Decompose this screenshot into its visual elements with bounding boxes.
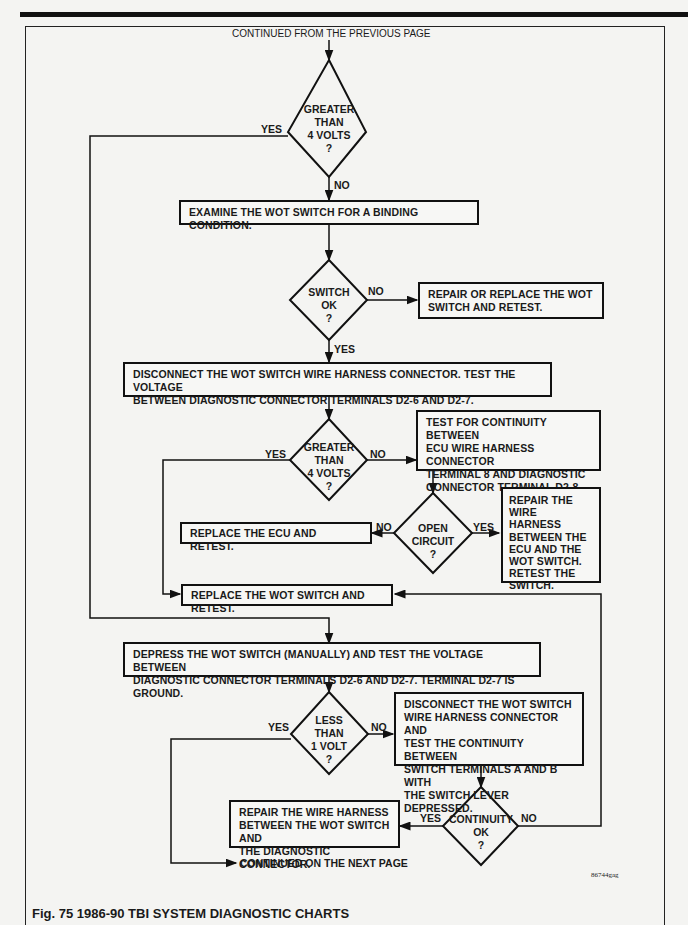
yes-label: YES <box>265 448 286 460</box>
box-line: REPAIR THE WIRE HARNESS <box>239 806 390 819</box>
decision-line: ? <box>401 548 465 561</box>
box-replace-wot: REPLACE THE WOT SWITCH AND RETEST. <box>181 584 393 606</box>
no-label: NO <box>371 721 387 733</box>
decision-line: 1 VOLT <box>299 740 359 753</box>
decision-line: OK <box>446 826 516 839</box>
yes-label: YES <box>268 721 289 733</box>
box-line: TEST THE CONTINUITY BETWEEN <box>404 737 574 763</box>
decision-line: OPEN <box>401 522 465 535</box>
box-line: BETWEEN THE WOT SWITCH AND <box>239 819 390 845</box>
box-depress: DEPRESS THE WOT SWITCH (MANUALLY) AND TE… <box>123 642 541 677</box>
box-disconnect-test: DISCONNECT THE WOT SWITCH WIRE HARNESS C… <box>123 362 552 397</box>
decision-d2-text: SWITCH OK ? <box>299 286 359 325</box>
box-line: DEPRESS THE WOT SWITCH (MANUALLY) AND TE… <box>133 648 531 674</box>
no-label: NO <box>370 448 386 460</box>
decision-line: 4 VOLTS <box>296 467 362 480</box>
box-line: TEST FOR CONTINUITY BETWEEN <box>426 416 591 442</box>
decision-line: OK <box>299 299 359 312</box>
decision-line: ? <box>299 312 359 325</box>
decision-line: THAN <box>299 727 359 740</box>
box-repair-harness-ecu: REPAIR THE WIRE HARNESS BETWEEN THE ECU … <box>501 487 601 583</box>
figure-caption: Fig. 75 1986-90 TBI SYSTEM DIAGNOSTIC CH… <box>32 906 349 921</box>
box-replace-ecu: REPLACE THE ECU AND RETEST. <box>180 522 372 544</box>
box-line: RETEST THE <box>509 567 593 579</box>
yes-label: YES <box>334 343 355 355</box>
decision-line: CIRCUIT <box>401 535 465 548</box>
box-line: REPAIR THE WIRE <box>509 494 593 518</box>
yes-label: YES <box>473 521 494 533</box>
box-line: ECU WIRE HARNESS CONNECTOR <box>426 442 591 468</box>
decision-d4-text: OPEN CIRCUIT ? <box>401 522 465 561</box>
decision-d1-text: GREATER THAN 4 VOLTS ? <box>296 103 362 155</box>
decision-line: SWITCH <box>299 286 359 299</box>
box-line: BETWEEN DIAGNOSTIC CONNECTOR TERMINALS D… <box>133 394 542 407</box>
box-line: SWITCH AND RETEST. <box>428 301 594 314</box>
box-line: WOT SWITCH. <box>509 555 593 567</box>
box-line: SWITCH TERMINALS A AND B WITH <box>404 763 574 789</box>
continued-from-text: CONTINUED FROM THE PREVIOUS PAGE <box>232 28 431 39</box>
no-label: NO <box>334 179 350 191</box>
box-line: REPLACE THE ECU AND RETEST. <box>190 527 362 553</box>
figure-id: 86744gag <box>591 871 619 879</box>
decision-line: ? <box>296 480 362 493</box>
box-disconnect-continuity: DISCONNECT THE WOT SWITCH WIRE HARNESS C… <box>394 692 584 766</box>
box-repair-replace: REPAIR OR REPLACE THE WOT SWITCH AND RET… <box>418 282 604 319</box>
no-label: NO <box>368 285 384 297</box>
box-line: BETWEEN THE <box>509 531 593 543</box>
decision-line: THAN <box>296 454 362 467</box>
box-line: HARNESS <box>509 518 593 530</box>
box-line: REPLACE THE WOT SWITCH AND RETEST. <box>191 589 383 615</box>
box-line: SWITCH. <box>509 579 593 591</box>
no-label: NO <box>521 812 537 824</box>
decision-line: GREATER <box>296 103 362 116</box>
yes-label: YES <box>420 812 441 824</box>
decision-line: 4 VOLTS <box>296 129 362 142</box>
decision-line: THAN <box>296 116 362 129</box>
box-continuity-test: TEST FOR CONTINUITY BETWEEN ECU WIRE HAR… <box>416 410 601 471</box>
decision-d6-text: CONTINUITY OK ? <box>446 813 516 852</box>
continued-on-text: CONTINUED ON THE NEXT PAGE <box>240 857 408 869</box>
box-line: DISCONNECT THE WOT SWITCH WIRE HARNESS C… <box>133 368 542 394</box>
decision-line: ? <box>299 753 359 766</box>
decision-line: LESS <box>299 714 359 727</box>
box-line: EXAMINE THE WOT SWITCH FOR A BINDING CON… <box>189 206 469 232</box>
box-repair-harness-diag: REPAIR THE WIRE HARNESS BETWEEN THE WOT … <box>229 800 400 848</box>
decision-line: GREATER <box>296 441 362 454</box>
decision-line: CONTINUITY <box>446 813 516 826</box>
box-examine: EXAMINE THE WOT SWITCH FOR A BINDING CON… <box>179 200 479 225</box>
yes-label: YES <box>261 123 282 135</box>
decision-d3-text: GREATER THAN 4 VOLTS ? <box>296 441 362 493</box>
decision-d5-text: LESS THAN 1 VOLT ? <box>299 714 359 766</box>
box-line: TERMINAL 8 AND DIAGNOSTIC <box>426 468 591 481</box>
box-line: WIRE HARNESS CONNECTOR AND <box>404 711 574 737</box>
box-line: REPAIR OR REPLACE THE WOT <box>428 288 594 301</box>
box-line: DISCONNECT THE WOT SWITCH <box>404 698 574 711</box>
decision-line: ? <box>296 142 362 155</box>
box-line: ECU AND THE <box>509 543 593 555</box>
no-label: NO <box>376 521 392 533</box>
decision-line: ? <box>446 839 516 852</box>
